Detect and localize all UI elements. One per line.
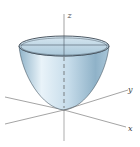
y-axis-label: y	[127, 85, 133, 94]
z-axis-label: z	[67, 11, 73, 20]
x-axis-back	[5, 110, 64, 124]
x-axis-front	[64, 110, 126, 127]
paraboloid-diagram: z y x	[0, 0, 140, 147]
x-axis-label: x	[128, 124, 133, 133]
x-axis	[5, 125, 126, 128]
